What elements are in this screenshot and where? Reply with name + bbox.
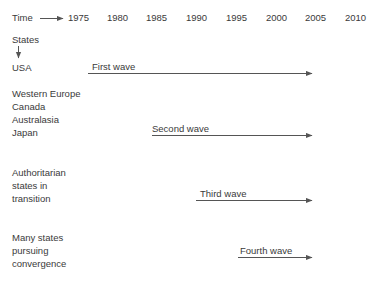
row-label-australasia: Australasia [12, 113, 59, 126]
year-label-1985: 1985 [146, 12, 167, 24]
timeline-diagram: Time States 1975 1980 1985 1990 1995 200… [0, 0, 374, 282]
year-label-1995: 1995 [226, 12, 247, 24]
row-label-canada: Canada [12, 100, 45, 113]
year-label-2010: 2010 [345, 12, 366, 24]
year-label-2000: 2000 [266, 12, 287, 24]
wave-label-fourth: Fourth wave [240, 245, 292, 257]
wave-label-first: First wave [92, 61, 135, 73]
row-label-western-europe: Western Europe [12, 87, 80, 100]
wave-label-second: Second wave [152, 123, 209, 135]
year-label-1990: 1990 [186, 12, 207, 24]
row-label-usa: USA [12, 61, 32, 74]
row-label-authoritarian-states-in: states in [12, 179, 47, 192]
row-label-convergence: convergence [12, 257, 66, 270]
row-label-authoritarian-transition: transition [12, 192, 51, 205]
year-label-2005: 2005 [305, 12, 326, 24]
year-label-1975: 1975 [68, 12, 89, 24]
wave-label-third: Third wave [200, 188, 246, 200]
row-label-japan: Japan [12, 126, 38, 139]
year-label-1980: 1980 [107, 12, 128, 24]
row-label-authoritarian: Authoritarian [12, 166, 66, 179]
time-axis-label: Time [12, 12, 33, 24]
row-label-pursuing: pursuing [12, 244, 48, 257]
row-label-many-states: Many states [12, 231, 63, 244]
states-axis-label: States [12, 34, 39, 46]
